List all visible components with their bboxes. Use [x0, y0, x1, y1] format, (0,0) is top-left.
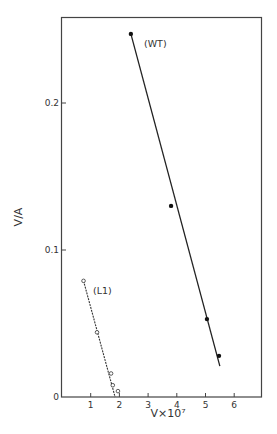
chart: 123456 00.10.2 V×10⁷ V/A (WT) (L1) — [0, 0, 277, 434]
wt-data-point — [169, 204, 173, 208]
series-label-wt: (WT) — [144, 38, 167, 49]
wt-fit-line — [131, 34, 220, 366]
series-layer — [82, 32, 221, 397]
y-axis-label: V/A — [12, 207, 25, 226]
wt-data-point — [205, 317, 209, 321]
l1-data-point — [82, 279, 86, 283]
y-tick-label: 0 — [53, 392, 59, 402]
y-tick-label: 0.2 — [45, 98, 59, 108]
l1-data-point — [95, 331, 99, 335]
x-tick-label: 5 — [203, 400, 209, 410]
series-label-l1: (L1) — [93, 285, 112, 296]
l1-data-point — [109, 372, 113, 376]
l1-data-point — [116, 389, 120, 393]
x-tick-label: 1 — [88, 400, 94, 410]
y-tick-label: 0.1 — [45, 245, 59, 255]
x-tick-label: 6 — [231, 400, 237, 410]
l1-fit-line — [84, 281, 116, 397]
y-axis-ticks: 00.10.2 — [45, 98, 66, 402]
wt-data-point — [217, 354, 221, 358]
x-tick-label: 2 — [117, 400, 123, 410]
wt-data-point — [129, 32, 133, 36]
l1-data-point — [111, 383, 115, 387]
x-axis-label: V×10⁷ — [150, 407, 185, 420]
plot-frame — [62, 18, 262, 398]
